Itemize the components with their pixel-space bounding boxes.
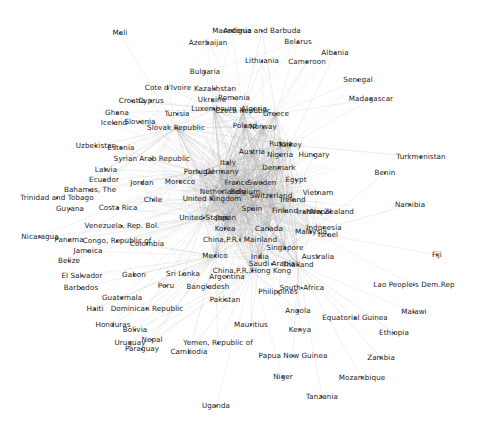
node-label: Cameroon xyxy=(288,58,326,66)
node-label: Barbados xyxy=(64,284,99,292)
node-label: Gabon xyxy=(122,271,146,279)
node-label: Iceland xyxy=(101,119,128,127)
node-label: Turkmenistan xyxy=(396,153,445,161)
node-label: Papua New Guinea xyxy=(259,352,328,360)
node-label: Canada xyxy=(255,225,283,233)
node-label: Bulgaria xyxy=(190,68,220,76)
node-label: Norway xyxy=(249,123,277,131)
node-label: Sri Lanka xyxy=(166,270,200,278)
node-label: Bangladesh xyxy=(187,283,230,291)
node-label: Peru xyxy=(158,282,174,290)
node-label: Philippines xyxy=(258,288,298,296)
node-label: Singapore xyxy=(267,244,304,252)
node-label: Uganda xyxy=(202,402,230,410)
node-label: Morocco xyxy=(165,178,196,186)
node-label: Panama xyxy=(54,236,83,244)
node-label: Angola xyxy=(285,307,310,315)
node-label: Senegal xyxy=(343,76,372,84)
node-label: Syrian Arab Republic xyxy=(114,155,190,163)
node-label: Bolivia xyxy=(123,326,147,334)
node-label: Slovak Republic xyxy=(147,124,205,132)
node-label: Malawi xyxy=(401,308,426,316)
node-label: Egypt xyxy=(285,176,306,184)
node-label: Madagascar xyxy=(349,95,393,103)
node-label: United Kingdom xyxy=(183,195,242,203)
node-label: Lithuania xyxy=(245,57,279,65)
node-label: Lao People's Dem.Rep xyxy=(373,281,454,289)
node-label: Trinidad and Tobago xyxy=(20,194,93,202)
node-label: Mexico xyxy=(202,252,228,260)
node-label: Guyana xyxy=(56,205,84,213)
node-label: Nigeria xyxy=(267,151,293,159)
node-label: Ireland xyxy=(280,196,305,204)
node-label: Paraguay xyxy=(125,345,159,353)
node-label: Romania xyxy=(218,94,250,102)
node-label: Russia xyxy=(269,140,293,148)
node-label: Austria xyxy=(239,148,265,156)
node-label: Germany xyxy=(205,168,239,176)
node-label: Dominican Republic xyxy=(111,305,184,313)
node-label: Korea xyxy=(215,225,236,233)
node-label: Estonia xyxy=(108,144,135,152)
node-label: Italy xyxy=(220,159,236,167)
node-label: Costa Rica xyxy=(99,204,138,212)
network-graph-figure: MaliMacedoniaAntigua and BarbudaAzerbaij… xyxy=(0,0,484,433)
node-label: Azerbaijan xyxy=(189,39,228,47)
node-label: Cyprus xyxy=(138,97,164,105)
node-label: Venezuela, Rep. Bol. xyxy=(85,222,160,230)
node-label: Nicaragua xyxy=(21,233,58,241)
node-label: Namibia xyxy=(395,201,425,209)
node-label: Nepal xyxy=(141,336,162,344)
node-label: Argentina xyxy=(209,273,245,281)
node-label: Mali xyxy=(113,29,128,37)
node-label: Latvia xyxy=(95,166,117,174)
node-label: Zambia xyxy=(367,354,395,362)
node-label: Cambodia xyxy=(171,348,208,356)
node-label: Benin xyxy=(375,169,396,177)
node-label: Albania xyxy=(321,49,348,57)
node-label: Belize xyxy=(58,257,80,265)
node-label: Haiti xyxy=(87,305,104,313)
node-label: Pakistan xyxy=(210,296,241,304)
node-label: Ecuador xyxy=(89,176,119,184)
node-label: Mozambique xyxy=(339,374,386,382)
node-label: Nepal xyxy=(310,208,331,216)
node-label: Yemen, Republic of xyxy=(183,339,253,347)
node-label: Spain xyxy=(242,205,262,213)
node-label: Belarus xyxy=(284,38,312,46)
node-label: Antigua and Barbuda xyxy=(223,27,301,35)
node-label: France xyxy=(225,179,249,187)
node-label: Kazakhstan xyxy=(194,85,236,93)
node-label: Kenya xyxy=(289,326,311,334)
node-label: Ghana xyxy=(105,109,129,117)
node-label: Tanzania xyxy=(306,393,338,401)
node-label: Japan xyxy=(216,214,236,222)
node-label: Vietnam xyxy=(303,189,333,197)
node-label: Equatorial Guinea xyxy=(322,314,388,322)
node-label: Greece xyxy=(263,110,289,118)
node-label: Fiji xyxy=(432,251,442,259)
node-label: Mauritius xyxy=(234,321,268,329)
node-label: El Salvador xyxy=(61,272,102,280)
node-label: Niger xyxy=(273,373,293,381)
node-label-layer: MaliMacedoniaAntigua and BarbudaAzerbaij… xyxy=(0,0,484,433)
node-label: Finland xyxy=(272,207,298,215)
node-label: Jordan xyxy=(130,179,153,187)
node-label: Chile xyxy=(144,196,162,204)
node-label: Colombia xyxy=(130,240,164,248)
node-label: Jamaica xyxy=(74,247,103,255)
node-label: Tunisia xyxy=(164,110,189,118)
node-label: Ethiopia xyxy=(379,329,409,337)
node-label: Hungary xyxy=(298,151,329,159)
node-label: Cote d'Ivoire xyxy=(145,84,191,92)
node-label: Israel xyxy=(318,231,338,239)
node-label: Sweden xyxy=(248,179,277,187)
node-label: Guatemala xyxy=(102,294,142,302)
node-label: Denmark xyxy=(262,164,296,172)
